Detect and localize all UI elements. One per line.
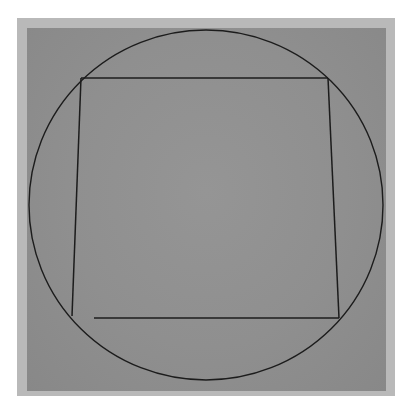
left-edge bbox=[72, 78, 81, 316]
right-edge bbox=[328, 78, 339, 318]
circle-shape bbox=[29, 30, 383, 380]
line-drawing bbox=[0, 0, 411, 404]
